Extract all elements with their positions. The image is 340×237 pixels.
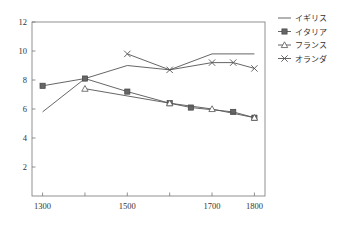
data-point-marker bbox=[82, 76, 87, 81]
x-axis-tick-label: 1700 bbox=[204, 201, 221, 211]
series-フランス bbox=[82, 86, 258, 121]
series-イタリア bbox=[40, 76, 257, 120]
legend-item-オランダ: オランダ bbox=[278, 54, 327, 64]
data-point-marker bbox=[282, 29, 287, 34]
series-line bbox=[43, 79, 255, 118]
legend-item-フランス: フランス bbox=[278, 41, 327, 50]
legend: イギリスイタリアフランスオランダ bbox=[278, 14, 327, 64]
x-axis-tick-label: 1300 bbox=[34, 201, 51, 211]
y-axis-tick-label: 10 bbox=[19, 46, 28, 56]
legend-item-イギリス: イギリス bbox=[278, 14, 327, 23]
data-point-marker bbox=[82, 86, 88, 92]
legend-label: フランス bbox=[295, 41, 327, 50]
y-axis-tick-label: 6 bbox=[23, 104, 27, 114]
data-point-marker bbox=[125, 89, 130, 94]
legend-item-イタリア: イタリア bbox=[278, 28, 327, 37]
legend-label: オランダ bbox=[295, 54, 327, 64]
y-axis-tick-label: 12 bbox=[19, 17, 28, 27]
y-axis-tick-label: 2 bbox=[23, 162, 27, 172]
line-chart: 246810121300150017001800イギリスイタリアフランスオランダ bbox=[0, 0, 340, 237]
x-axis-tick-label: 1800 bbox=[246, 201, 263, 211]
plot-border bbox=[32, 22, 265, 196]
y-axis-tick-label: 4 bbox=[23, 133, 28, 143]
legend-label: イギリス bbox=[295, 14, 327, 23]
legend-label: イタリア bbox=[295, 28, 327, 37]
chart-container: 246810121300150017001800イギリスイタリアフランスオランダ bbox=[0, 0, 340, 237]
y-axis-tick-label: 8 bbox=[23, 75, 27, 85]
data-point-marker bbox=[40, 83, 45, 88]
x-axis-tick-label: 1500 bbox=[119, 201, 136, 211]
